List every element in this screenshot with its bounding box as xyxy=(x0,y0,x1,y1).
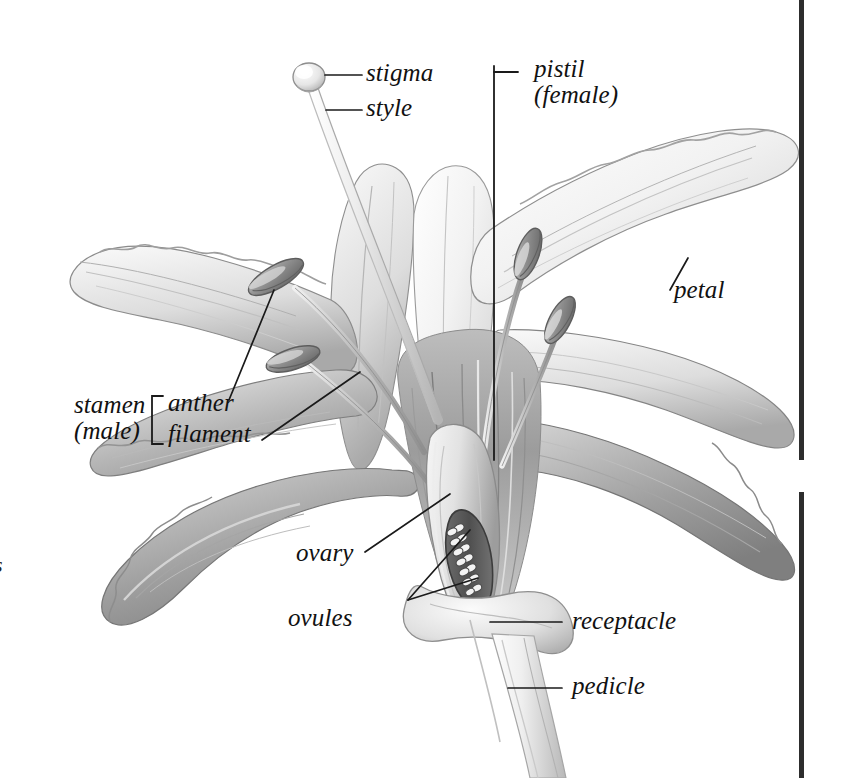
petal-lower-right xyxy=(497,420,795,580)
label-pistil: pistil (female) xyxy=(534,56,618,109)
label-receptacle: receptacle xyxy=(572,607,676,634)
label-anther: anther xyxy=(168,389,234,416)
stigma-head xyxy=(293,63,325,92)
pedicle-stem xyxy=(492,634,566,778)
diagram-page: stigma style pistil (female) petal stame… xyxy=(0,0,846,778)
label-pistil-line1: pistil xyxy=(534,56,618,82)
page-rule-right xyxy=(799,0,804,778)
label-style: style xyxy=(366,94,412,121)
flower-anatomy-illustration xyxy=(0,0,846,778)
label-stamen-line2: (male) xyxy=(74,418,145,444)
label-stamen: stamen (male) xyxy=(74,392,145,445)
label-pistil-line2: (female) xyxy=(534,82,618,108)
label-pedicle: pedicle xyxy=(572,672,645,699)
label-filament: filament xyxy=(168,420,251,447)
page-edge-fragment: s xyxy=(0,552,3,578)
label-stamen-line1: stamen xyxy=(74,392,145,418)
label-ovules: ovules xyxy=(288,604,352,631)
label-petal: petal xyxy=(674,276,725,303)
receptacle-pedicle-group xyxy=(403,586,573,778)
label-ovary: ovary xyxy=(296,539,353,566)
label-stigma: stigma xyxy=(366,59,433,86)
